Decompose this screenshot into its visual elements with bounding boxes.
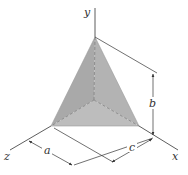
x-axis-label: x bbox=[172, 150, 179, 163]
dimension-c-label: c bbox=[129, 141, 135, 154]
x-axis bbox=[139, 126, 178, 150]
z-axis-label: z bbox=[3, 150, 10, 163]
dimension-b-label: b bbox=[149, 97, 156, 110]
extension-line-left-base bbox=[54, 128, 113, 162]
dimension-a-label: a bbox=[44, 144, 51, 157]
tetrahedron-diagram: b a c y z x bbox=[0, 0, 188, 175]
y-axis-label: y bbox=[83, 6, 91, 19]
